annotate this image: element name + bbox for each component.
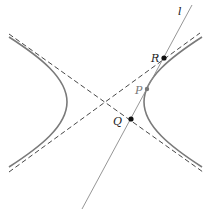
- label-P: P: [134, 84, 143, 97]
- line-l: [82, 5, 192, 209]
- point-R: [161, 55, 166, 60]
- label-l: l: [178, 5, 182, 18]
- point-Q: [128, 116, 133, 121]
- point-P: [145, 87, 149, 91]
- hyperbola-left-branch: [9, 37, 67, 167]
- label-R: R: [150, 52, 159, 65]
- hyperbola-diagram: l R P Q: [0, 0, 207, 214]
- label-Q: Q: [113, 115, 122, 128]
